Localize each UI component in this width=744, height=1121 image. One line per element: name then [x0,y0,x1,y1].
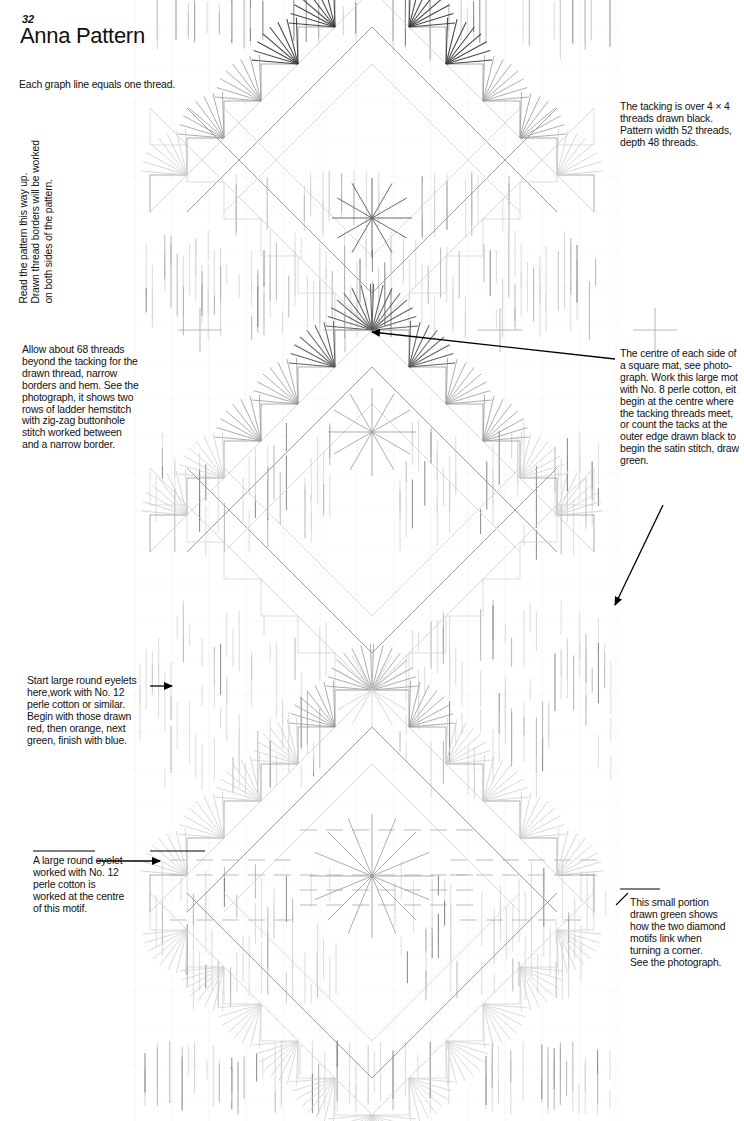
note-centre-of-side: The centre of each side of a square mat,… [620,348,744,467]
page-title: Anna Pattern [20,24,145,48]
drawn-thread-dashes [140,0,611,1115]
note-allow-threads: Allow about 68 threads beyond the tackin… [22,344,146,451]
note-green-portion: This small portion drawn green shows how… [630,897,736,968]
note-start-eyelets: Start large round eyelets here,work with… [27,675,159,746]
note-read-this-way-up: Read the pattern this way up. Drawn thre… [18,94,55,304]
note-large-eyelet: A large round eyelet worked with No. 12 … [33,855,153,915]
note-tacking: The tacking is over 4 × 4 threads drawn … [620,101,738,149]
note-thread-scale: Each graph line equals one thread. [19,79,219,91]
graph-grid [128,0,620,1121]
centre-star-eyelet [178,178,677,938]
diamond-motif-lines [150,0,594,1115]
